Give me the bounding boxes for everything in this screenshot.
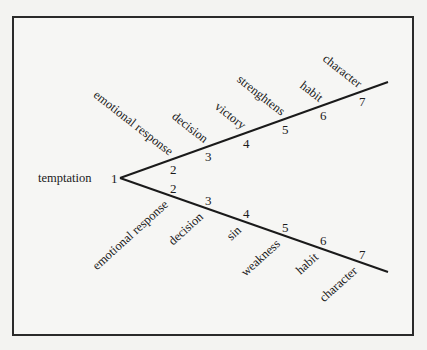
- upper-step-label: character: [320, 51, 365, 91]
- start-label: temptation: [38, 171, 92, 185]
- upper-step-number: 7: [359, 94, 366, 109]
- upper-step-label: decision: [169, 109, 211, 146]
- temptation-branch-diagram: temptation 1 2emotional response3decisio…: [0, 0, 427, 350]
- lower-step-label: habit: [293, 250, 321, 277]
- lower-branch-steps: 2emotional response3decision4sin5weaknes…: [90, 181, 366, 305]
- lower-step-number: 7: [359, 247, 366, 262]
- lower-step-number: 2: [170, 181, 177, 196]
- upper-step-number: 3: [205, 149, 212, 164]
- upper-step-label: habit: [297, 78, 326, 105]
- lower-step-label: character: [317, 263, 361, 305]
- lower-step-label: emotional response: [90, 197, 172, 273]
- upper-step-label: strenghtens: [234, 72, 288, 118]
- upper-step-number: 5: [282, 122, 289, 137]
- lower-step-label: sin: [224, 223, 245, 244]
- start-number: 1: [111, 171, 118, 186]
- lower-step-number: 4: [243, 206, 250, 221]
- lower-step-label: weakness: [238, 237, 283, 280]
- lower-step-number: 5: [282, 220, 289, 235]
- upper-branch-steps: 2emotional response3decision4victory5str…: [91, 51, 366, 177]
- upper-step-number: 6: [320, 108, 327, 123]
- lower-step-number: 3: [205, 193, 212, 208]
- upper-step-label: victory: [212, 99, 249, 132]
- upper-step-number: 2: [170, 162, 177, 177]
- upper-step-label: emotional response: [91, 88, 176, 159]
- lower-step-number: 6: [320, 233, 327, 248]
- upper-step-number: 4: [243, 136, 250, 151]
- lower-step-label: decision: [166, 209, 207, 248]
